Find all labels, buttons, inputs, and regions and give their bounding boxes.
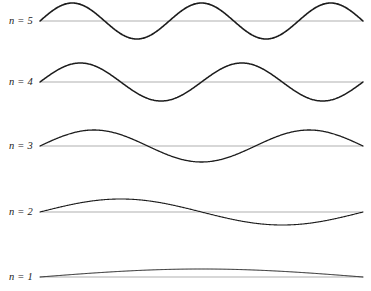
standing-wave-modes-figure: n = 5 n = 4 n = 3 n = 2 n = 1 <box>0 0 371 291</box>
mode-label-n4: n = 4 <box>9 77 33 88</box>
wave-plot-area <box>0 0 371 291</box>
wave-curve-n1 <box>40 269 363 277</box>
equilibrium-axes-group <box>40 21 363 277</box>
mode-label-n5: n = 5 <box>9 16 33 27</box>
wave-curves-group <box>40 3 363 277</box>
mode-label-n3: n = 3 <box>9 141 33 152</box>
mode-label-n2: n = 2 <box>9 207 33 218</box>
mode-label-n1: n = 1 <box>9 272 33 283</box>
